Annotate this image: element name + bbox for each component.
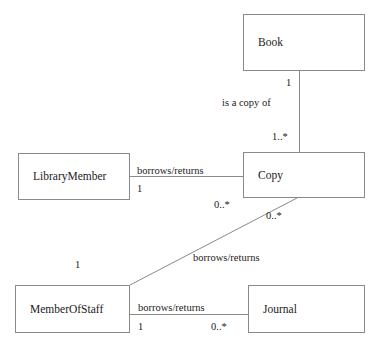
multiplicity-copy-end-of-book: 1..* — [272, 132, 288, 143]
association-label-memberofstaff-copy: borrows/returns — [193, 253, 260, 264]
multiplicity-book-end: 1 — [286, 78, 291, 89]
multiplicity-copy-end-of-librarymember: 0..* — [214, 200, 230, 211]
class-box-journal[interactable]: Journal — [248, 285, 365, 333]
multiplicity-memberofstaff-end-of-copy: 1 — [75, 260, 80, 271]
uml-class-diagram: Book LibraryMember Copy MemberOfStaff Jo… — [0, 0, 381, 355]
class-name-book: Book — [244, 36, 283, 49]
association-label-is-a-copy-of: is a copy of — [222, 98, 271, 109]
multiplicity-journal-end: 0..* — [211, 322, 227, 333]
multiplicity-librarymember-end: 1 — [137, 184, 142, 195]
class-name-librarymember: LibraryMember — [19, 170, 106, 183]
class-name-memberofstaff: MemberOfStaff — [16, 303, 103, 316]
class-box-book[interactable]: Book — [243, 14, 365, 71]
class-box-memberofstaff[interactable]: MemberOfStaff — [15, 285, 130, 333]
class-box-copy[interactable]: Copy — [243, 152, 365, 198]
class-name-copy: Copy — [244, 169, 283, 182]
class-name-journal: Journal — [249, 303, 297, 316]
association-label-librarymember-copy: borrows/returns — [137, 166, 204, 177]
association-label-memberofstaff-journal: borrows/returns — [138, 303, 205, 314]
multiplicity-copy-end-of-memberofstaff: 0..* — [266, 211, 282, 222]
multiplicity-memberofstaff-end-of-journal: 1 — [138, 322, 143, 333]
class-box-librarymember[interactable]: LibraryMember — [18, 153, 130, 200]
